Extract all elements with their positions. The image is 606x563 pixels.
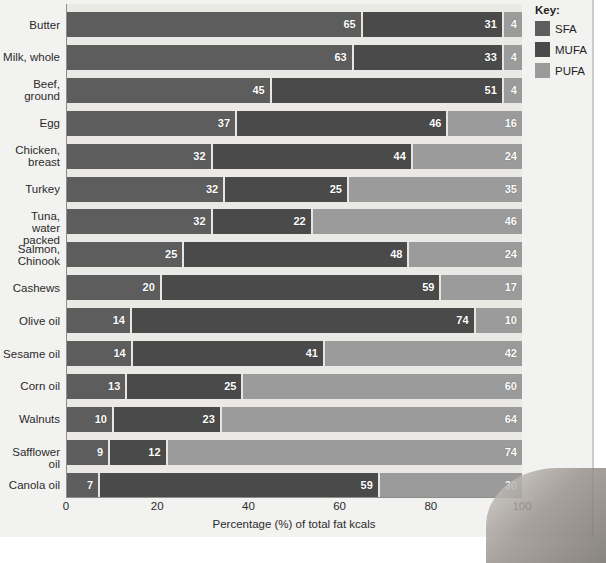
bar-segment-mufa: 41: [133, 341, 325, 366]
category-label: Tuna, water packed: [0, 210, 60, 246]
x-tick-label: 0: [63, 500, 69, 512]
bar-row: 322535: [67, 177, 522, 202]
segment-value-label: 45: [253, 85, 270, 96]
bar-segment-pufa: 24: [413, 144, 522, 169]
segment-value-label: 25: [330, 184, 347, 195]
segment-value-label: 12: [148, 447, 165, 458]
segment-value-label: 46: [429, 118, 446, 129]
bar-row: 63334: [67, 45, 522, 70]
bar-row: 254824: [67, 242, 522, 267]
segment-value-label: 51: [485, 85, 502, 96]
segment-value-label: 16: [505, 118, 522, 129]
plot-area: 6531463334455143746163244243225353222462…: [66, 4, 522, 497]
category-label: Turkey: [0, 183, 60, 195]
segment-value-label: 48: [390, 249, 407, 260]
bar-segment-sfa: 14: [67, 341, 133, 366]
bar-segment-pufa: 24: [409, 242, 522, 267]
bar-segment-mufa: 48: [184, 242, 409, 267]
segment-value-label: 65: [344, 19, 361, 30]
legend-item: MUFA: [535, 42, 593, 57]
stacked-bar: 144142: [67, 341, 522, 366]
segment-value-label: 32: [193, 151, 210, 162]
bar-row: 205917: [67, 275, 522, 300]
bar-row: 45514: [67, 78, 522, 103]
bar-segment-sfa: 45: [67, 78, 272, 103]
category-label: Butter: [0, 19, 60, 31]
stacked-bar: 102364: [67, 407, 522, 432]
bar-segment-pufa: 64: [222, 407, 522, 432]
segment-value-label: 4: [511, 19, 522, 30]
segment-value-label: 25: [165, 249, 182, 260]
segment-value-label: 32: [193, 216, 210, 227]
bar-segment-sfa: 25: [67, 242, 184, 267]
segment-value-label: 24: [505, 249, 522, 260]
legend-swatch-sfa: [535, 21, 550, 36]
bar-row: 91274: [67, 440, 522, 465]
segment-value-label: 7: [87, 480, 98, 491]
bar-row: 322246: [67, 209, 522, 234]
bar-segment-pufa: 60: [243, 374, 522, 399]
bar-row: 324424: [67, 144, 522, 169]
stacked-bar: 132560: [67, 374, 522, 399]
segment-value-label: 60: [505, 381, 522, 392]
bar-row: 374616: [67, 111, 522, 136]
category-label: Beef, ground: [0, 78, 60, 102]
segment-value-label: 44: [394, 151, 411, 162]
bar-segment-mufa: 74: [132, 308, 476, 333]
bar-segment-pufa: 16: [448, 111, 522, 136]
category-label: Walnuts: [0, 413, 60, 425]
category-label: Corn oil: [0, 380, 60, 392]
segment-value-label: 4: [511, 85, 522, 96]
bar-segment-sfa: 7: [67, 473, 100, 498]
stacked-bar: 45514: [67, 78, 522, 103]
x-axis-title: Percentage (%) of total fat kcals: [66, 518, 522, 530]
segment-value-label: 41: [306, 348, 323, 359]
category-label: Olive oil: [0, 315, 60, 327]
stacked-bar: 147410: [67, 308, 522, 333]
category-label: Milk, whole: [0, 51, 60, 63]
category-label: Sesame oil: [0, 348, 60, 360]
legend-label: SFA: [555, 23, 577, 35]
segment-value-label: 14: [113, 348, 130, 359]
bar-row: 102364: [67, 407, 522, 432]
bar-segment-mufa: 12: [110, 440, 167, 465]
segment-value-label: 33: [485, 52, 502, 63]
bar-segment-sfa: 63: [67, 45, 354, 70]
segment-value-label: 59: [422, 282, 439, 293]
stacked-bar: 322246: [67, 209, 522, 234]
segment-value-label: 64: [505, 414, 522, 425]
segment-value-label: 25: [224, 381, 241, 392]
bar-segment-mufa: 31: [363, 12, 504, 37]
segment-value-label: 17: [505, 282, 522, 293]
bar-segment-mufa: 25: [225, 177, 349, 202]
stacked-bar: 322535: [67, 177, 522, 202]
stacked-bar: 205917: [67, 275, 522, 300]
bar-segment-pufa: 74: [168, 440, 522, 465]
bar-row: 75930: [67, 473, 522, 498]
legend-swatch-mufa: [535, 42, 550, 57]
bar-segment-mufa: 59: [162, 275, 442, 300]
bar-segment-mufa: 46: [237, 111, 448, 136]
category-label: Canola oil: [0, 479, 60, 491]
segment-value-label: 32: [206, 184, 223, 195]
bar-segment-mufa: 51: [272, 78, 504, 103]
bar-segment-pufa: 4: [504, 12, 522, 37]
bar-segment-pufa: 46: [313, 209, 522, 234]
bar-segment-pufa: 30: [380, 473, 522, 498]
bar-segment-pufa: 35: [349, 177, 522, 202]
bar-segment-sfa: 37: [67, 111, 237, 136]
stacked-bar: 75930: [67, 473, 522, 498]
bar-row: 147410: [67, 308, 522, 333]
stacked-bar: 65314: [67, 12, 522, 37]
x-tick-label: 20: [151, 500, 164, 512]
category-label: Cashews: [0, 282, 60, 294]
segment-value-label: 20: [143, 282, 160, 293]
stacked-bar: 324424: [67, 144, 522, 169]
bar-segment-pufa: 17: [441, 275, 522, 300]
legend-item: SFA: [535, 21, 593, 36]
bar-row: 144142: [67, 341, 522, 366]
category-label: Salmon, Chinook: [0, 243, 60, 267]
segment-value-label: 59: [361, 480, 378, 491]
bar-row: 65314: [67, 12, 522, 37]
bar-segment-sfa: 9: [67, 440, 110, 465]
